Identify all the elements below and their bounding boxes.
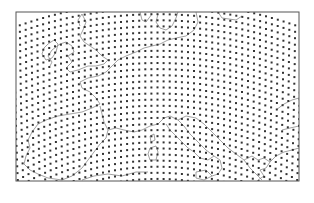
corsica-coastline [150,134,155,142]
grid-points [13,9,302,183]
italy-coastline [164,116,222,176]
scandinavia-coastline [140,12,242,46]
map-frame [16,12,299,181]
iberia-coastline [24,104,108,180]
grid-point-map [0,0,314,203]
sicily-coastline [196,170,212,180]
france-south-coastline [108,118,164,132]
coastlines [24,12,299,180]
